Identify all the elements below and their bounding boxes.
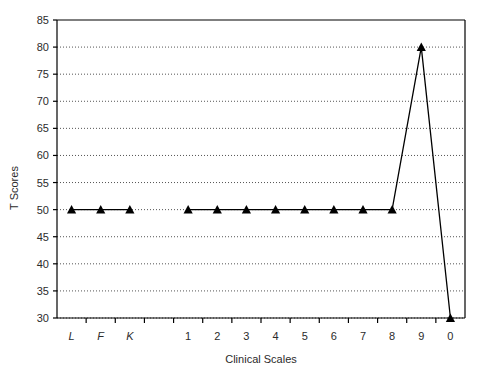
y-tick-label-35: 35 (37, 285, 49, 297)
y-tick-label-60: 60 (37, 149, 49, 161)
x-tick-label-7: 7 (360, 330, 366, 342)
y-tick-label-65: 65 (37, 122, 49, 134)
x-tick-label-0: 0 (447, 330, 453, 342)
y-tick-label-55: 55 (37, 177, 49, 189)
y-tick-label-30: 30 (37, 312, 49, 324)
x-axis-title: Clinical Scales (225, 353, 297, 365)
x-tick-label-1: 1 (185, 330, 191, 342)
y-tick-label-85: 85 (37, 14, 49, 26)
chart-background (0, 0, 480, 375)
y-tick-label-80: 80 (37, 41, 49, 53)
y-tick-label-45: 45 (37, 231, 49, 243)
x-tick-label-6: 6 (331, 330, 337, 342)
y-tick-label-70: 70 (37, 95, 49, 107)
x-tick-label-5: 5 (302, 330, 308, 342)
x-tick-label-L: L (69, 330, 75, 342)
t-score-line-chart: 303540455055606570758085 LFK1234567890 T… (0, 0, 480, 375)
x-tick-label-2: 2 (214, 330, 220, 342)
x-tick-label-K: K (126, 330, 134, 342)
y-tick-label-40: 40 (37, 258, 49, 270)
x-tick-label-3: 3 (243, 330, 249, 342)
y-axis-title: T Scores (8, 166, 20, 210)
chart-container: 303540455055606570758085 LFK1234567890 T… (0, 0, 480, 375)
y-tick-label-75: 75 (37, 68, 49, 80)
x-tick-label-9: 9 (418, 330, 424, 342)
x-tick-label-4: 4 (273, 330, 279, 342)
x-tick-label-8: 8 (389, 330, 395, 342)
y-tick-label-50: 50 (37, 204, 49, 216)
